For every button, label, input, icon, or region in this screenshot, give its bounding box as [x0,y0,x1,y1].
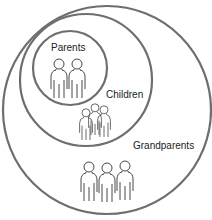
grandparents-figures-icon [81,161,133,202]
parents-figures-icon [51,59,85,98]
nested-circles-diagram [0,0,212,220]
children-figures-icon [80,104,111,140]
children-label: Children [106,89,143,100]
parents-label: Parents [51,42,85,53]
grandparents-label: Grandparents [133,140,194,151]
